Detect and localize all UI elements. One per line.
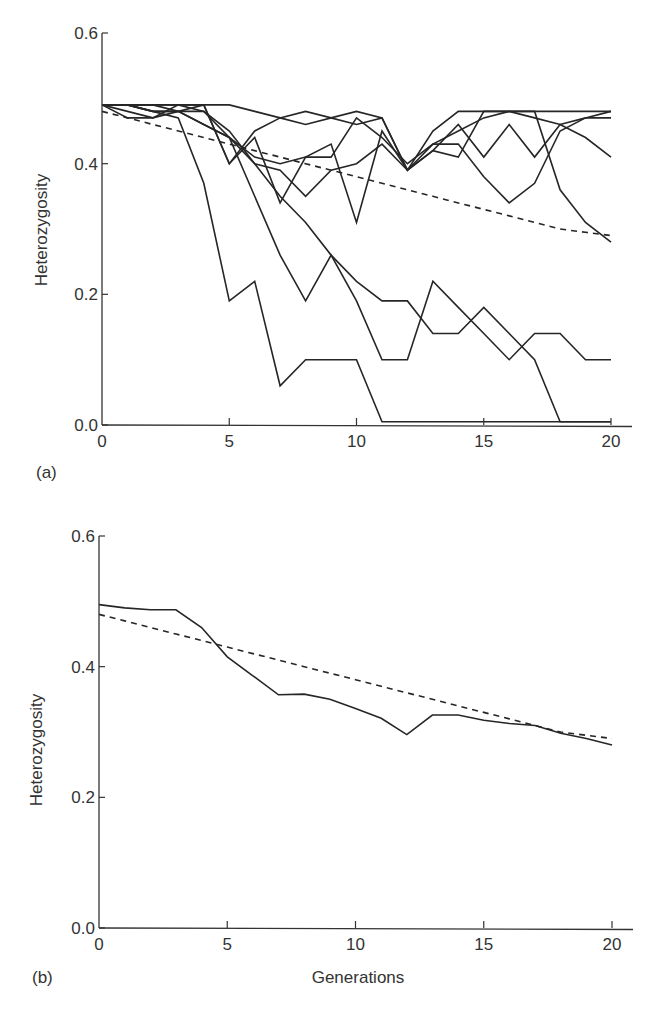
panel-a-x-tick-label: 10 xyxy=(347,432,366,451)
panel-a-series-line xyxy=(102,105,611,170)
panel-b-x-axis xyxy=(99,928,633,930)
panel-a-ylabel: Heterozygosity xyxy=(32,173,51,286)
panel-b-x-tick-label: 20 xyxy=(603,935,622,954)
panel-a-series-line xyxy=(102,105,611,170)
panel-b-axes: 0.00.20.40.605101520 xyxy=(71,527,633,954)
panel-a-y-tick-label: 0.2 xyxy=(74,285,98,304)
panel-a-x-tick-label: 20 xyxy=(602,432,621,451)
panel-b-series xyxy=(99,605,612,746)
panel-a-x-tick-label: 0 xyxy=(97,432,106,451)
panel-a-series-line xyxy=(102,105,611,360)
panel-a-x-axis xyxy=(102,425,632,427)
panel-a-y-tick-label: 0.0 xyxy=(74,416,98,435)
panel-a-y-tick-label: 0.4 xyxy=(74,155,98,174)
panel-a-series-line xyxy=(102,105,611,422)
panel-b-y-tick-label: 0.2 xyxy=(71,788,95,807)
panel-a-series xyxy=(102,105,611,422)
panel-b-y-tick-label: 0.4 xyxy=(71,658,95,677)
panel-a-series-line xyxy=(102,105,611,422)
panel-b-y-tick-label: 0.6 xyxy=(71,527,95,546)
panel-b-series-line xyxy=(99,605,612,746)
panel-a-x-tick-label: 5 xyxy=(225,432,234,451)
panel-b-expected-dashed-line xyxy=(99,614,612,738)
panel-a-axes: 0.00.20.40.605101520 xyxy=(74,24,632,451)
chart-panel-b: 0.00.20.40.605101520 Heterozygosity Gene… xyxy=(27,527,633,987)
panel-a-expected-dashed-line xyxy=(102,111,611,235)
panel-a-label: (a) xyxy=(36,463,57,482)
panel-a-y-tick-label: 0.6 xyxy=(74,24,98,43)
panel-b-x-tick-label: 10 xyxy=(346,935,365,954)
panel-a-x-tick-label: 15 xyxy=(474,432,493,451)
panel-b-y-tick-label: 0.0 xyxy=(71,919,95,938)
panel-b-label: (b) xyxy=(32,968,53,987)
figure: 0.00.20.40.605101520 Heterozygosity (a) … xyxy=(0,0,661,1015)
chart-panel-a: 0.00.20.40.605101520 Heterozygosity (a) xyxy=(32,24,632,482)
panel-b-x-tick-label: 15 xyxy=(474,935,493,954)
panel-b-x-tick-label: 5 xyxy=(223,935,232,954)
panel-b-ylabel: Heterozygosity xyxy=(27,693,46,806)
panel-b-x-tick-label: 0 xyxy=(94,935,103,954)
panel-b-xlabel: Generations xyxy=(312,968,405,987)
